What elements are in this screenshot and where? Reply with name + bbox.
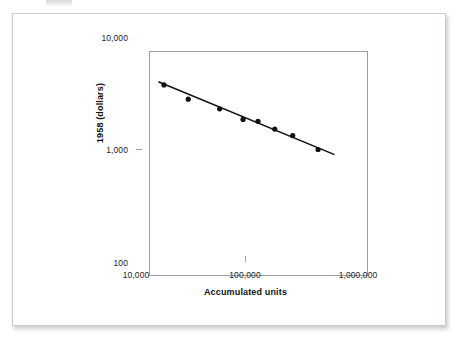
tick-marks — [136, 150, 246, 263]
data-point — [161, 82, 166, 87]
data-point — [315, 147, 320, 152]
data-point — [255, 119, 260, 124]
trend-line — [158, 82, 334, 155]
data-point — [290, 133, 295, 138]
data-point — [217, 106, 222, 111]
plot-graphics — [0, 0, 462, 348]
trend-line-segment — [158, 82, 334, 155]
data-point — [240, 117, 245, 122]
data-point — [186, 97, 191, 102]
data-point — [272, 126, 277, 131]
